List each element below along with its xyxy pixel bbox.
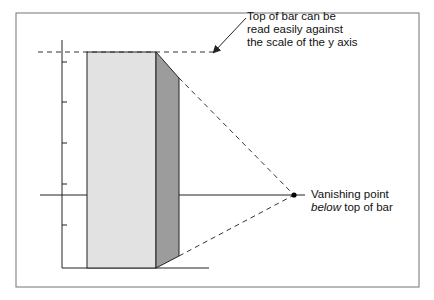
annotation-vp-line-1: Vanishing point — [311, 188, 393, 201]
perspective-line-top — [179, 78, 294, 195]
annotation-vp-rest: top of bar — [341, 201, 393, 213]
annotation-vp-line-2: below top of bar — [311, 201, 393, 214]
annotation-top-line-1: Top of bar can be — [247, 10, 358, 23]
bar-side-face — [156, 52, 179, 268]
bar-front-face — [87, 52, 156, 268]
annotation-top-line-3: the scale of the y axis — [247, 36, 358, 49]
vanishing-point-dot — [291, 192, 296, 197]
annotation-arrow-icon — [214, 18, 246, 52]
figure-frame — [16, 13, 419, 287]
diagram-canvas: Top of bar can be read easily against th… — [0, 0, 434, 300]
annotation-top-of-bar: Top of bar can be read easily against th… — [247, 10, 358, 49]
y-axis-ticks — [62, 62, 67, 225]
annotation-top-line-2: read easily against — [247, 23, 358, 36]
annotation-vanishing-point: Vanishing point below top of bar — [311, 188, 393, 214]
diagram-svg — [0, 0, 434, 300]
perspective-line-bottom — [179, 195, 294, 256]
annotation-vp-italic: below — [311, 201, 341, 213]
